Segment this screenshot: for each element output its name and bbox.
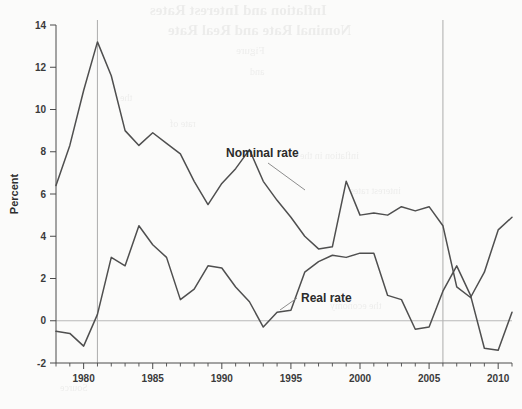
y-axis-tick-label: 10 bbox=[35, 104, 47, 115]
x-axis-tick-label: 2000 bbox=[349, 373, 372, 384]
x-axis-group: 1980198519901995200020052010 bbox=[56, 363, 512, 384]
annotation-leader-line bbox=[268, 163, 305, 190]
annotation-leader-line bbox=[280, 298, 297, 310]
y-axis-tick-label: 6 bbox=[40, 189, 46, 200]
annotation-label-nominal-rate: Nominal rate bbox=[226, 146, 299, 160]
annotation-label-real-rate: Real rate bbox=[301, 291, 352, 305]
x-axis-tick-label: 1995 bbox=[280, 373, 303, 384]
x-axis-tick-label: 2010 bbox=[487, 373, 510, 384]
y-axis-tick-label: 8 bbox=[40, 146, 46, 157]
y-axis-tick-label: 14 bbox=[35, 20, 47, 31]
chart-container: Inflation and Interest Rates Nominal Rat… bbox=[0, 0, 522, 409]
y-axis-tick-label: 0 bbox=[40, 315, 46, 326]
y-axis-tick-label: 4 bbox=[40, 231, 46, 242]
series-line-nominal-rate bbox=[56, 42, 512, 298]
y-axis-tick-label: 12 bbox=[35, 62, 47, 73]
y-axis-group: -202468101214 bbox=[35, 20, 56, 369]
y-axis-tick-label: 2 bbox=[40, 273, 46, 284]
series-line-real-rate bbox=[56, 226, 512, 351]
x-axis-tick-label: 2005 bbox=[418, 373, 441, 384]
x-axis-tick-label: 1990 bbox=[211, 373, 234, 384]
x-axis-tick-label: 1985 bbox=[142, 373, 165, 384]
x-axis-tick-label: 1980 bbox=[73, 373, 96, 384]
data-series-group bbox=[56, 42, 512, 350]
y-axis-tick-label: -2 bbox=[37, 358, 46, 369]
y-axis-title-group: Percent bbox=[8, 173, 20, 214]
line-chart-plot: -202468101214 19801985199019952000200520… bbox=[0, 0, 522, 409]
y-axis-title: Percent bbox=[8, 173, 20, 214]
annotations-group: Nominal rateReal rate bbox=[226, 146, 352, 310]
